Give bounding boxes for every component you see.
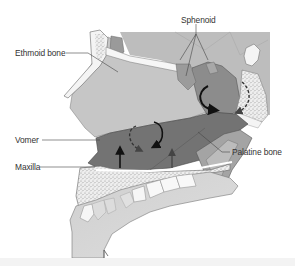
- label-maxilla: Maxilla: [15, 162, 40, 172]
- label-palatine-bone: Palatine bone: [232, 147, 282, 157]
- label-vomer: Vomer: [15, 135, 39, 145]
- footer-strip: [0, 258, 295, 266]
- anatomy-diagram: Ethmoid bone Sphenoid Vomer Maxilla Pala…: [0, 0, 295, 270]
- label-sphenoid: Sphenoid: [181, 15, 216, 25]
- label-ethmoid-bone: Ethmoid bone: [15, 48, 65, 58]
